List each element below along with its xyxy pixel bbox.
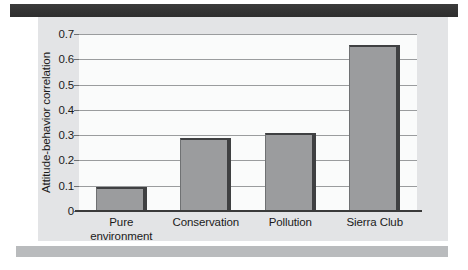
y-tick-label: 0.5 [59,79,74,91]
y-tick-label: 0.7 [59,28,74,40]
bar[interactable] [180,138,231,211]
x-axis-line [75,210,422,212]
x-tick-label-line: Sierra Club [333,216,418,230]
x-tick-label-line: Conservation [164,216,249,230]
bar-slot [265,34,316,211]
bar-slot [96,34,147,211]
y-axis-title: Attitude-behavior correlation [40,34,56,211]
y-tick-label: 0.4 [59,104,74,116]
x-tick-label-line: Pure [79,216,164,230]
top-decorative-band [10,4,458,17]
bar-series [79,34,417,211]
x-tick-label-line: Pollution [248,216,333,230]
x-tick-label: Conservation [164,216,249,230]
bar[interactable] [96,187,147,211]
bar-slot [349,34,400,211]
y-tick-label: 0.6 [59,53,74,65]
x-tick-label: Pureenvironment [79,216,164,243]
plot-wrapper: 0.70.60.50.40.30.20.10 PureenvironmentCo… [79,34,417,211]
y-tick-label: 0 [68,205,74,217]
x-tick-label: Pollution [248,216,333,230]
y-tick-label: 0.2 [59,154,74,166]
x-tick-label: Sierra Club [333,216,418,230]
bar[interactable] [265,133,316,211]
bottom-decorative-band [16,246,448,257]
x-tick-label-line: environment [79,230,164,244]
figure: Attitude-behavior correlation 0.70.60.50… [0,0,468,270]
y-tick-label: 0.1 [59,180,74,192]
y-tick-label: 0.3 [59,129,74,141]
bar-slot [180,34,231,211]
bar[interactable] [349,45,400,211]
